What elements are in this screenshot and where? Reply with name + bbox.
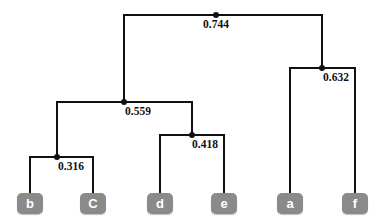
leaf-label-C: C xyxy=(88,197,97,210)
branch-m-af xyxy=(290,68,355,193)
merge-height-label-m-af: 0.632 xyxy=(323,71,349,83)
leaf-label-d: d xyxy=(156,197,164,210)
leaf-label-b: b xyxy=(26,197,34,210)
leaf-node-d[interactable]: d xyxy=(147,193,173,214)
merge-height-label-m-root: 0.744 xyxy=(203,18,229,30)
merge-height-label-m-bCde: 0.559 xyxy=(125,105,151,117)
leaf-node-e[interactable]: e xyxy=(211,193,237,214)
leaf-node-f[interactable]: f xyxy=(342,193,368,214)
leaf-node-C[interactable]: C xyxy=(80,193,106,214)
leaf-label-a: a xyxy=(286,197,293,210)
dendrogram-figure: 0.3160.4180.5590.6320.744 bCdeaf xyxy=(0,0,386,220)
leaf-label-e: e xyxy=(220,197,227,210)
dendrogram-branches xyxy=(0,0,386,220)
leaf-node-a[interactable]: a xyxy=(277,193,303,214)
leaf-node-b[interactable]: b xyxy=(17,193,43,214)
merge-height-label-m-bC: 0.316 xyxy=(58,160,84,172)
leaf-label-f: f xyxy=(353,197,357,210)
merge-height-label-m-de: 0.418 xyxy=(192,138,218,150)
